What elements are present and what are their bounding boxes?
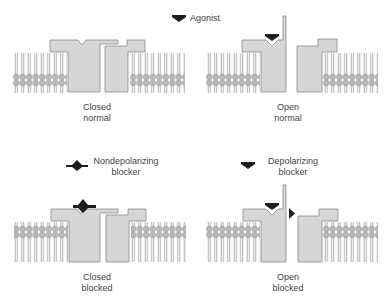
channel-diagram — [0, 0, 193, 152]
state-label: Open normal — [248, 102, 328, 124]
lipid-bilayer-left — [13, 53, 67, 93]
channel-diagram — [193, 0, 387, 152]
nondepolarizing-legend: Nondepolarizing blocker — [88, 156, 164, 178]
lipid-bilayer-left — [14, 222, 68, 262]
panel-open-blocked: Depolarizing blocker Open blocked — [193, 152, 386, 304]
lipid-bilayer-right — [323, 53, 378, 93]
agonist-bound-icon — [265, 34, 279, 41]
agonist-icon — [172, 15, 186, 22]
nondepolarizing-blocker-icon — [66, 160, 88, 171]
lipid-bilayer-right — [131, 222, 186, 262]
panel-closed-normal: Closed normal — [0, 0, 193, 152]
depolarizing-blocker-pore-icon — [289, 208, 295, 219]
lipid-bilayer-right — [130, 53, 185, 93]
panel-closed-blocked: Nondepolarizing blocker Closed blocked — [0, 152, 193, 304]
lipid-bilayer-right — [323, 222, 378, 262]
lipid-bilayer-left — [206, 53, 260, 93]
depolarizing-legend: Depolarizing blocker — [253, 156, 333, 178]
state-label: Open blocked — [248, 272, 328, 294]
lipid-bilayer-left — [206, 222, 260, 262]
depolarizing-blocker-bound-icon — [265, 203, 279, 210]
state-label: Closed blocked — [57, 272, 137, 294]
state-label: Closed normal — [57, 102, 137, 124]
panel-open-normal: Open normal — [193, 0, 386, 152]
